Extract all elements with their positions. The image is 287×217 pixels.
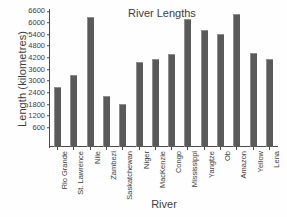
x-tick-label: Lena — [273, 151, 281, 168]
y-tick-label: 3600 — [28, 66, 47, 74]
y-tick: 5400 — [28, 31, 50, 39]
y-tick: 3600 — [28, 66, 50, 74]
y-tick-label: 3000 — [28, 77, 47, 85]
y-tick: 2400 — [28, 89, 50, 97]
y-tick-label: 4200 — [28, 54, 47, 62]
y-tick: 600 — [32, 124, 50, 132]
y-tick-label: 1200 — [28, 112, 47, 120]
x-tick-label: Mississippi — [191, 151, 199, 187]
y-tick: 3000 — [28, 77, 50, 85]
x-tick-label: Rio Grande — [61, 151, 69, 189]
y-tick: 1800 — [28, 101, 50, 109]
x-tick-label: Yangtze — [208, 151, 216, 178]
chart-container: Length (kilometres) River Lengths 600120… — [0, 0, 287, 217]
y-tick: 6600 — [28, 8, 50, 16]
x-tick-label: Yellow — [257, 151, 265, 172]
y-tick-label: 6600 — [28, 8, 47, 16]
y-tick-label: 5400 — [28, 31, 47, 39]
x-tick-label: Niger — [143, 151, 151, 169]
y-tick-label: 4800 — [28, 42, 47, 50]
x-tick-label: St. Lawrence — [77, 151, 85, 195]
x-tick-label: Amazon — [240, 151, 248, 179]
y-tick-label: 1800 — [28, 101, 47, 109]
y-tick: 4200 — [28, 54, 50, 62]
x-tick-label: Congo — [175, 151, 183, 173]
x-tick-label: Zambezi — [110, 151, 118, 180]
y-tick: 1200 — [28, 112, 50, 120]
x-tick-label: Saskatchewan — [126, 151, 134, 200]
y-tick-label: 2400 — [28, 89, 47, 97]
y-axis-title: Length (kilometres) — [16, 17, 28, 142]
x-axis-title: River — [50, 198, 278, 210]
x-tick-label: MacKenzie — [159, 151, 167, 188]
y-tick-label: 600 — [32, 124, 47, 132]
x-tick-label: Ob — [224, 151, 232, 161]
x-tick-label: Nile — [94, 151, 102, 164]
x-axis-ticklabels: Rio GrandeSt. LawrenceNileZambeziSaskatc… — [50, 0, 278, 217]
y-tick: 4800 — [28, 42, 50, 50]
y-tick-label: 6000 — [28, 19, 47, 27]
y-tick: 6000 — [28, 19, 50, 27]
